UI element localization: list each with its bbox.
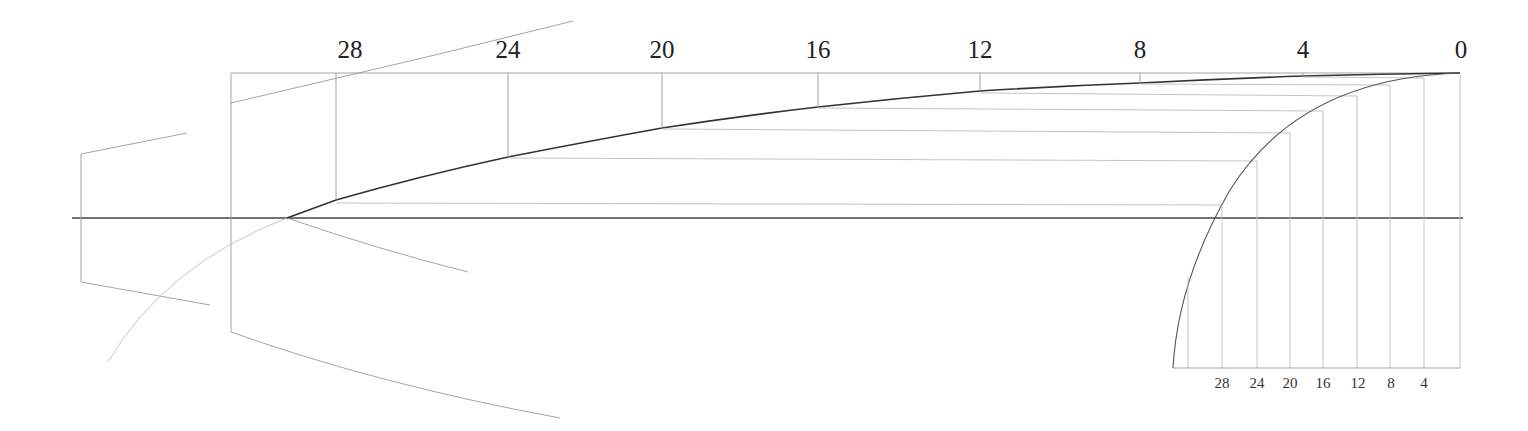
bottom-label-4: 4 <box>1420 375 1428 391</box>
bottom-vertical-lines <box>1188 73 1460 368</box>
bottom-label-28: 28 <box>1215 375 1230 391</box>
left-circular-arc <box>108 218 287 362</box>
top-scale-labels: 28 24 20 16 12 8 4 0 <box>338 36 1468 63</box>
bottom-label-24: 24 <box>1250 375 1266 391</box>
bottom-scale-labels: 28 24 20 16 12 8 4 <box>1215 375 1429 391</box>
lower-sweep-curve <box>231 332 560 418</box>
top-vertical-drops <box>336 73 1303 200</box>
top-label-24: 24 <box>496 36 522 63</box>
top-label-16: 16 <box>806 36 831 63</box>
horizontal-projection-lines <box>336 77 1424 205</box>
top-label-20: 20 <box>650 36 675 63</box>
top-label-8: 8 <box>1134 36 1147 63</box>
bottom-label-20: 20 <box>1283 375 1298 391</box>
bottom-label-8: 8 <box>1387 375 1395 391</box>
left-outer-bracket <box>81 133 210 305</box>
top-label-28: 28 <box>338 36 363 63</box>
construction-diagram: 28 24 20 16 12 8 4 0 28 24 20 16 12 8 4 <box>0 0 1528 431</box>
bottom-label-16: 16 <box>1316 375 1332 391</box>
projected-curve <box>287 73 1460 218</box>
top-label-12: 12 <box>968 36 993 63</box>
lower-branch-curve <box>287 218 468 272</box>
upper-diagonal-line <box>231 21 573 103</box>
top-label-4: 4 <box>1297 36 1310 63</box>
quarter-circle-arc <box>1173 73 1460 368</box>
top-label-0: 0 <box>1455 36 1468 63</box>
bottom-label-12: 12 <box>1351 375 1366 391</box>
